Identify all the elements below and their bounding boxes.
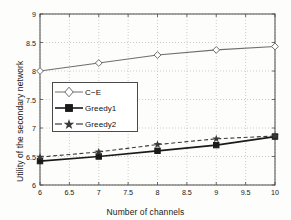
legend-marker-ce [53,84,85,100]
legend-marker-greedy2 [53,116,85,132]
x-tick-label: 7 [97,188,101,197]
x-tick-label: 6.5 [64,188,74,197]
y-tick-label: 6.5 [18,152,36,161]
y-axis-label: Utility of the secondary network [15,61,25,182]
x-tick-label: 8.5 [182,188,192,197]
legend-label-greedy1: Greedy1 [85,104,116,113]
legend-label-ce: C−E [85,88,101,97]
series-2 [36,132,279,161]
legend-label-greedy2: Greedy2 [85,120,116,129]
x-axis-label: Number of channels [0,207,291,217]
y-tick-label: 7 [18,124,36,133]
chart-legend: C−E Greedy1 Greedy2 [52,82,138,132]
series-1 [37,134,277,164]
y-tick-label: 7.5 [18,95,36,104]
x-tick-label: 8 [156,188,160,197]
y-tick-label: 8 [18,67,36,76]
x-tick-label: 9 [214,188,218,197]
x-tick-label: 10 [271,188,279,197]
y-tick-label: 8.5 [18,38,36,47]
y-tick-label: 6 [18,181,36,190]
legend-item-2: Greedy2 [53,116,137,132]
chart-plot-area [0,0,291,220]
x-tick-label: 9.5 [241,188,251,197]
x-tick-label: 7.5 [123,188,133,197]
y-tick-label: 9 [18,10,36,19]
x-tick-label: 6 [38,188,42,197]
legend-marker-greedy1 [53,100,85,116]
legend-item-1: Greedy1 [53,100,137,116]
chart-figure: C−E Greedy1 Greedy2 Number of channels [0,0,291,220]
legend-item-0: C−E [53,84,137,100]
